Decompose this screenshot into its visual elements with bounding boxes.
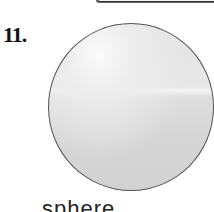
previous-answer-box [97,0,214,2]
figure-label: sphere [42,198,115,212]
problem-number: 11. [3,22,26,48]
sphere-figure [48,23,214,191]
